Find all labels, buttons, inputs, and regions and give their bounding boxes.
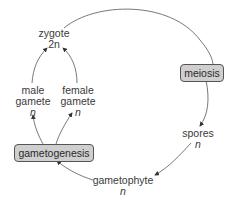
node-gametophyte: gametophyte n [88,175,158,197]
node-female-gamete: female gamete n [58,85,98,118]
life-cycle-diagram: zygote 2n male gamete n female gamete n … [0,0,241,206]
spores-ploidy: n [178,139,218,150]
node-meiosis: meiosis [180,64,224,82]
female-gamete-ploidy: n [58,107,98,118]
zygote-ploidy: 2n [34,39,74,50]
node-male-gamete: male gamete n [13,85,53,118]
male-gamete-ploidy: n [13,107,53,118]
node-gametogenesis: gametogenesis [14,144,94,162]
gametogenesis-label: gametogenesis [18,147,89,159]
node-zygote: zygote 2n [34,28,74,50]
gametophyte-ploidy: n [88,186,158,197]
meiosis-label: meiosis [184,67,220,79]
node-spores: spores n [178,128,218,150]
